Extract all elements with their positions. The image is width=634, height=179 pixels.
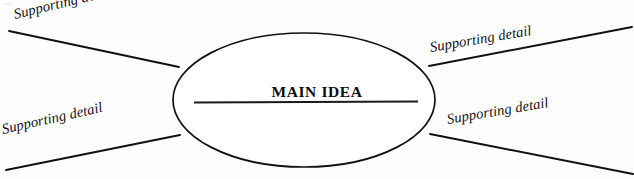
branch-line-bottom-right [430, 134, 633, 174]
branch-line-bottom-left [6, 135, 180, 170]
branch-line-top-left [9, 31, 179, 67]
main-idea-web-diagram: Supporting MAIN IDEA Supporting detail S… [0, 0, 634, 179]
main-idea-write-line [194, 102, 418, 103]
